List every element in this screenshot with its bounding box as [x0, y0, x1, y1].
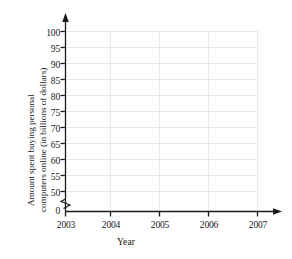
x-tick-label-2006: 2006 [189, 220, 229, 230]
x-axis-title-text: Year [117, 236, 135, 247]
x-tick-label-2005: 2005 [140, 220, 180, 230]
chart-figure: Amount spent buying personal computers o… [0, 0, 292, 259]
x-tick-label-2004: 2004 [91, 220, 131, 230]
x-axis-tick-labels: 2003 2004 2005 2006 2007 [0, 0, 292, 259]
x-axis-title: Year [0, 236, 292, 247]
x-tick-label-2007: 2007 [238, 220, 278, 230]
x-tick-label-2003: 2003 [46, 220, 86, 230]
